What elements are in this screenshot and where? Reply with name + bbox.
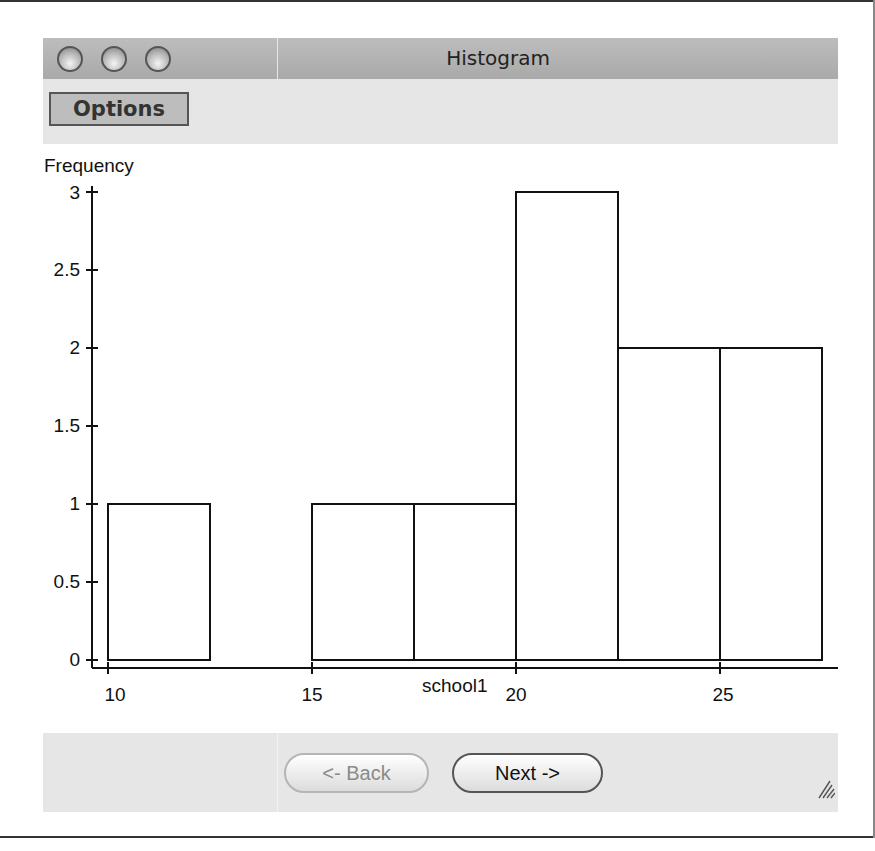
histogram-bar [516,192,618,660]
histogram-bar [618,348,720,660]
resize-grip-icon[interactable] [815,777,835,799]
histogram-bar [312,504,414,660]
histogram-chart: Frequency school1 0 0.5 1 1.5 2 2.5 3 10… [0,0,875,851]
navigation-bar: <- Back Next -> [43,733,838,812]
next-button[interactable]: Next -> [452,753,603,793]
histogram-bars [108,192,822,660]
histogram-bar [414,504,516,660]
back-button[interactable]: <- Back [284,753,429,793]
histogram-bar [720,348,822,660]
panel-divider [277,733,278,812]
plot-area [0,0,875,851]
histogram-bar [108,504,210,660]
